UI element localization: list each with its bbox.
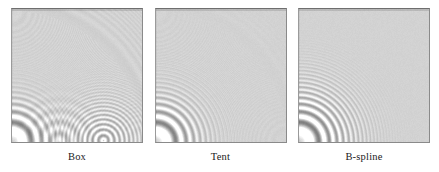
figure-container: Box Tent B-spline bbox=[0, 0, 439, 172]
zone-plate-canvas-bspline bbox=[299, 9, 429, 142]
panel-row: Box Tent B-spline bbox=[0, 0, 439, 172]
zone-plate-image-tent bbox=[155, 8, 287, 143]
panel-caption-bspline: B-spline bbox=[345, 151, 382, 163]
panel-tent: Tent bbox=[155, 8, 287, 163]
zone-plate-image-box bbox=[11, 8, 143, 143]
zone-plate-canvas-box bbox=[12, 9, 142, 142]
panel-caption-tent: Tent bbox=[211, 151, 230, 163]
panel-box: Box bbox=[11, 8, 143, 163]
panel-bspline: B-spline bbox=[298, 8, 430, 163]
zone-plate-canvas-tent bbox=[156, 9, 286, 142]
zone-plate-image-bspline bbox=[298, 8, 430, 143]
panel-caption-box: Box bbox=[68, 151, 86, 163]
